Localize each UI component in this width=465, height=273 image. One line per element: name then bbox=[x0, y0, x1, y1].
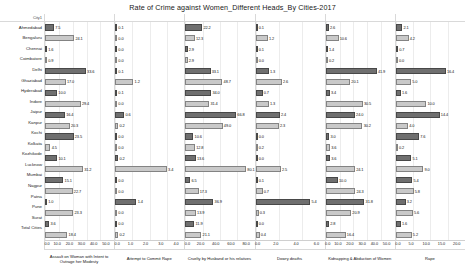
bar-row[interactable]: 0.2 bbox=[115, 120, 184, 131]
bar-row[interactable]: 1.0 bbox=[45, 197, 114, 208]
bar-row[interactable]: 5.0 bbox=[396, 77, 465, 88]
bar[interactable] bbox=[115, 112, 124, 118]
bar-row[interactable]: 10.1 bbox=[45, 153, 114, 164]
bar[interactable] bbox=[115, 90, 117, 96]
bar[interactable] bbox=[256, 57, 258, 63]
bar-row[interactable]: 5.4 bbox=[396, 175, 465, 186]
bar[interactable] bbox=[115, 199, 136, 205]
bar[interactable] bbox=[45, 79, 66, 85]
bar-row[interactable]: 2.9 bbox=[185, 44, 254, 55]
bar[interactable] bbox=[115, 79, 133, 85]
bar[interactable] bbox=[115, 177, 117, 183]
bar[interactable] bbox=[185, 79, 222, 85]
bar[interactable] bbox=[256, 123, 279, 129]
bar-row[interactable]: 1.2 bbox=[115, 77, 184, 88]
bar[interactable] bbox=[45, 133, 74, 139]
bar[interactable] bbox=[326, 166, 355, 172]
bar-row[interactable]: 4.5 bbox=[45, 142, 114, 153]
bar-row[interactable]: 21.1 bbox=[185, 229, 254, 240]
bar-row[interactable]: 30.2 bbox=[326, 120, 395, 131]
city-label[interactable]: Indore bbox=[0, 96, 44, 107]
bar-row[interactable]: 12.3 bbox=[185, 33, 254, 44]
bar[interactable] bbox=[115, 232, 118, 238]
bar-row[interactable]: 41.9 bbox=[326, 66, 395, 77]
bar[interactable] bbox=[326, 35, 339, 41]
bar-row[interactable]: 2.5 bbox=[256, 164, 325, 175]
bar-row[interactable]: 0.1 bbox=[256, 175, 325, 186]
bar[interactable] bbox=[185, 199, 213, 205]
bar[interactable] bbox=[396, 188, 414, 194]
bar[interactable] bbox=[45, 112, 65, 118]
city-label[interactable]: Kanpur bbox=[0, 117, 44, 128]
bar[interactable] bbox=[115, 221, 117, 227]
bar-row[interactable]: 17.3 bbox=[185, 186, 254, 197]
bar[interactable] bbox=[115, 210, 117, 216]
bar[interactable] bbox=[396, 68, 446, 74]
bar-row[interactable]: 0.2 bbox=[115, 229, 184, 240]
bar-row[interactable]: 24.1 bbox=[326, 164, 395, 175]
bar[interactable] bbox=[115, 144, 117, 150]
bar-row[interactable]: 3.6 bbox=[45, 218, 114, 229]
bar[interactable] bbox=[326, 90, 330, 96]
bar-row[interactable]: 11.9 bbox=[185, 218, 254, 229]
bar[interactable] bbox=[45, 68, 86, 74]
bar[interactable] bbox=[185, 133, 193, 139]
bar[interactable] bbox=[185, 123, 222, 129]
bar[interactable] bbox=[185, 57, 187, 63]
bar-row[interactable]: 3.4 bbox=[115, 164, 184, 175]
bar-row[interactable]: 1.3 bbox=[256, 98, 325, 109]
bar[interactable] bbox=[45, 232, 67, 238]
bar[interactable] bbox=[396, 90, 401, 96]
bar-row[interactable]: 18.4 bbox=[45, 229, 114, 240]
city-label[interactable]: Kolkata bbox=[0, 138, 44, 149]
city-label[interactable]: Patna bbox=[0, 191, 44, 202]
bar-row[interactable]: 16.4 bbox=[326, 229, 395, 240]
bar[interactable] bbox=[185, 166, 246, 172]
bar-row[interactable]: 24.0 bbox=[326, 109, 395, 120]
bar-row[interactable]: 0.7 bbox=[256, 186, 325, 197]
bar-row[interactable]: 15.1 bbox=[45, 175, 114, 186]
bar-row[interactable]: 0.3 bbox=[256, 207, 325, 218]
bar[interactable] bbox=[45, 24, 54, 30]
bar-row[interactable]: 20.3 bbox=[45, 120, 114, 131]
bar[interactable] bbox=[185, 24, 202, 30]
bar[interactable] bbox=[396, 166, 423, 172]
bar[interactable] bbox=[256, 166, 281, 172]
city-label[interactable]: Nagpur bbox=[0, 180, 44, 191]
bar-row[interactable]: 0.0 bbox=[115, 98, 184, 109]
bar[interactable] bbox=[115, 24, 117, 30]
bar[interactable] bbox=[256, 144, 258, 150]
bar[interactable] bbox=[396, 101, 426, 107]
bar-row[interactable]: 49.0 bbox=[185, 120, 254, 131]
bar-row[interactable]: 10.6 bbox=[185, 131, 254, 142]
bar[interactable] bbox=[396, 221, 401, 227]
bar-row[interactable]: 29.4 bbox=[45, 98, 114, 109]
city-label[interactable]: Ahmedabad bbox=[0, 22, 44, 33]
bar-row[interactable]: 30.5 bbox=[326, 98, 395, 109]
bar[interactable] bbox=[115, 188, 117, 194]
city-label[interactable]: Total Cities bbox=[0, 222, 44, 233]
bar[interactable] bbox=[115, 57, 117, 63]
bar-row[interactable]: 0.0 bbox=[115, 33, 184, 44]
bar[interactable] bbox=[45, 57, 47, 63]
bar-row[interactable]: 0.0 bbox=[256, 218, 325, 229]
bar-row[interactable]: 0.0 bbox=[115, 44, 184, 55]
bar-row[interactable]: 7.5 bbox=[45, 22, 114, 33]
bar-row[interactable]: 33.1 bbox=[185, 66, 254, 77]
bar-row[interactable]: 1.2 bbox=[256, 33, 325, 44]
bar-row[interactable]: 12.8 bbox=[185, 142, 254, 153]
city-label[interactable]: Ghaziabad bbox=[0, 75, 44, 86]
bar[interactable] bbox=[45, 221, 49, 227]
bar[interactable] bbox=[185, 68, 210, 74]
bar[interactable] bbox=[256, 188, 263, 194]
bar-row[interactable]: 0.0 bbox=[256, 55, 325, 66]
bar[interactable] bbox=[45, 46, 47, 52]
bar[interactable] bbox=[326, 155, 330, 161]
bar-row[interactable]: 80.1 bbox=[185, 164, 254, 175]
bar[interactable] bbox=[185, 210, 196, 216]
bar-row[interactable]: 0.0 bbox=[256, 131, 325, 142]
bar[interactable] bbox=[396, 177, 412, 183]
bar-row[interactable]: 2.9 bbox=[185, 55, 254, 66]
bar[interactable] bbox=[45, 123, 70, 129]
bar[interactable] bbox=[326, 101, 363, 107]
